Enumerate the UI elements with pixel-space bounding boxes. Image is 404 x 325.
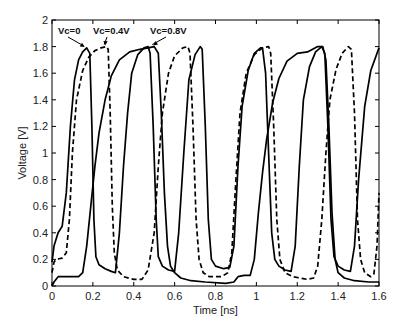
y-tick-label: 2 [42,14,48,26]
annotation-label: Vc=0 [58,25,80,36]
y-tick-label: 0.4 [33,227,48,239]
y-axis-label: Voltage [V] [16,126,28,179]
y-tick-label: 0.8 [33,174,48,186]
x-tick-label: 1.4 [330,290,345,302]
series-line-vc-0-8v [52,47,379,286]
y-tick-label: 1.6 [33,67,48,79]
x-tick-label: 0.2 [85,290,100,302]
x-tick-label: 1 [253,290,259,302]
annotation-label: Vc=0.8V [150,25,187,36]
x-tick-label: 1.2 [290,290,305,302]
annotation-layer: Vc=0Vc=0.4VVc=0.8V [58,25,187,47]
axes-layer: 00.20.40.60.811.21.41.600.20.40.60.811.2… [33,14,387,302]
annotation-arrowhead [103,41,107,46]
y-tick-label: 0.6 [33,200,48,212]
y-tick-label: 1.8 [33,41,48,53]
y-tick-label: 0 [42,280,48,292]
x-tick-label: 0 [49,290,55,302]
y-tick-label: 1 [42,147,48,159]
y-tick-label: 0.2 [33,253,48,265]
annotation-label: Vc=0.4V [93,25,130,36]
y-tick-label: 1.2 [33,120,48,132]
x-axis-label: Time [ns] [193,304,238,316]
voltage-time-chart: 00.20.40.60.811.21.41.600.20.40.60.811.2… [0,0,404,325]
x-tick-label: 0.4 [126,290,141,302]
x-tick-label: 0.8 [208,290,223,302]
series-layer [52,47,379,286]
y-tick-label: 1.4 [33,94,48,106]
annotation-arrowhead [80,43,85,47]
x-tick-label: 1.6 [371,290,386,302]
x-tick-label: 0.6 [167,290,182,302]
